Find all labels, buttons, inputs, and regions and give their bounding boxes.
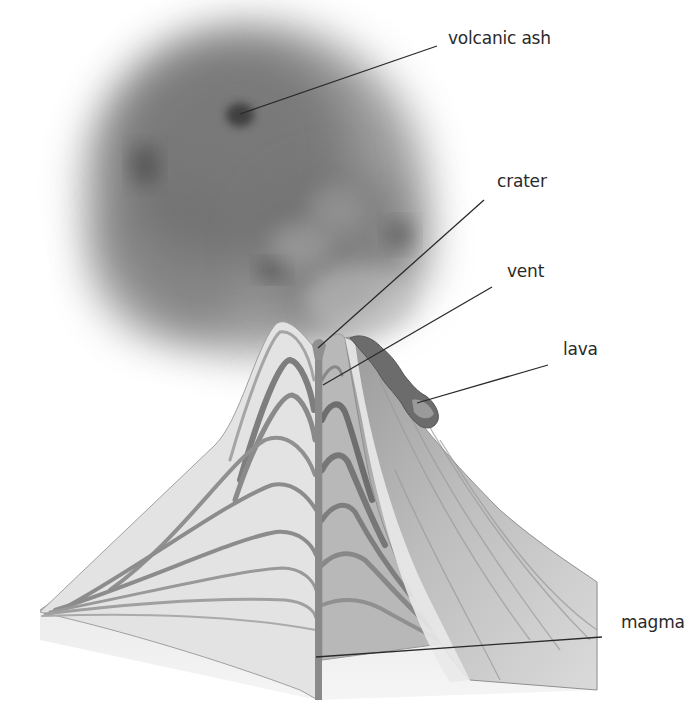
leader-line-lava (417, 365, 548, 403)
ash-cloud (85, 25, 430, 355)
label-volcanic-ash: volcanic ash (448, 28, 551, 48)
label-magma: magma (621, 612, 685, 632)
label-lava: lava (563, 339, 598, 359)
label-crater: crater (497, 171, 547, 191)
magma-conduit (315, 345, 322, 700)
label-vent: vent (507, 261, 544, 281)
volcano-diagram: volcanic ash crater vent lava magma (0, 0, 697, 714)
